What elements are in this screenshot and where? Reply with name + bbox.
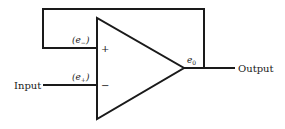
opamp-triangle [97, 18, 184, 119]
input-label: Input [14, 80, 41, 91]
output-label: Output [238, 63, 274, 74]
plus-terminal-sign: + [101, 43, 109, 54]
opamp-diagram: Input Output (e−) (e+) + − e0 [0, 0, 285, 129]
e0-label: e0 [187, 55, 196, 66]
e-plus-label: (e+) [72, 72, 90, 83]
feedback-wire [43, 9, 204, 68]
e-minus-label: (e−) [72, 35, 90, 46]
minus-terminal-sign: − [101, 80, 109, 91]
